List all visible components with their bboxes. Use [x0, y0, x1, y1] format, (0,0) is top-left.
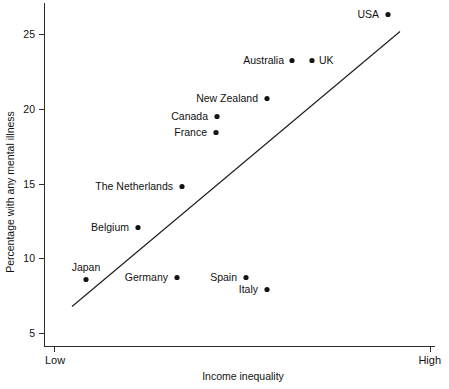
x-tick-label-low: Low [45, 354, 65, 366]
point-marker-belgium [135, 225, 140, 230]
data-point-japan[interactable]: Japan [72, 261, 101, 282]
data-point-france[interactable]: France [174, 126, 218, 138]
point-label-australia: Australia [243, 54, 284, 66]
scatter-chart-figure: 25 20 15 10 5 Low High Income inequality… [0, 0, 449, 389]
point-label-france: France [174, 126, 207, 138]
point-marker-canada [214, 114, 219, 119]
data-points-group: USA Australia UK New Zealand Canada Fran [72, 8, 391, 295]
point-label-canada: Canada [171, 110, 208, 122]
point-marker-japan [83, 277, 88, 282]
point-label-japan: Japan [72, 261, 101, 273]
point-label-uk: UK [319, 54, 334, 66]
x-axis-title: Income inequality [202, 370, 284, 382]
chart-svg: 25 20 15 10 5 Low High Income inequality… [0, 0, 449, 389]
y-tick-label-25: 25 [23, 28, 35, 40]
data-point-germany[interactable]: Germany [125, 271, 180, 283]
point-marker-germany [174, 275, 179, 280]
point-marker-italy [264, 287, 269, 292]
point-label-the-netherlands: The Netherlands [95, 180, 173, 192]
point-label-italy: Italy [239, 283, 259, 295]
point-label-belgium: Belgium [91, 221, 129, 233]
y-tick-label-15: 15 [23, 178, 35, 190]
data-point-canada[interactable]: Canada [171, 110, 219, 122]
point-label-germany: Germany [125, 271, 169, 283]
data-point-spain[interactable]: Spain [210, 271, 248, 283]
data-point-australia[interactable]: Australia [243, 54, 294, 66]
point-marker-france [213, 130, 218, 135]
y-tick-label-5: 5 [29, 327, 35, 339]
point-marker-australia [289, 58, 294, 63]
point-marker-uk [309, 58, 314, 63]
data-point-uk[interactable]: UK [309, 54, 333, 66]
point-marker-usa [385, 12, 390, 17]
point-marker-spain [243, 275, 248, 280]
point-label-spain: Spain [210, 271, 237, 283]
point-label-usa: USA [357, 8, 379, 20]
point-marker-the-netherlands [179, 184, 184, 189]
y-tick-label-10: 10 [23, 252, 35, 264]
x-tick-group: Low High [45, 347, 441, 367]
data-point-the-netherlands[interactable]: The Netherlands [95, 180, 184, 192]
y-axis-title: Percentage with any mental illness [4, 111, 16, 273]
point-marker-new-zealand [264, 96, 269, 101]
data-point-usa[interactable]: USA [357, 8, 390, 20]
trend-line [72, 32, 400, 307]
data-point-belgium[interactable]: Belgium [91, 221, 141, 233]
y-tick-group: 25 20 15 10 5 [23, 28, 44, 339]
data-point-new-zealand[interactable]: New Zealand [196, 92, 269, 104]
point-label-new-zealand: New Zealand [196, 92, 258, 104]
data-point-italy[interactable]: Italy [239, 283, 270, 295]
y-tick-label-20: 20 [23, 103, 35, 115]
x-tick-label-high: High [418, 354, 441, 366]
